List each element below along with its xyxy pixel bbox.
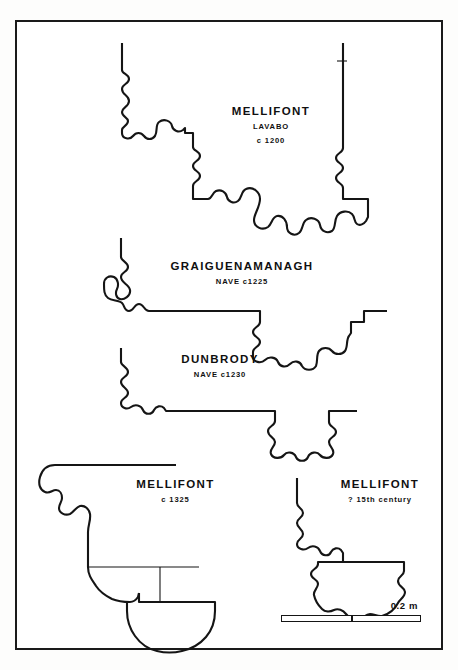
label-sub-mellifont-lavabo: LAVABO xyxy=(196,121,346,132)
label-mellifont-lavabo: MELLIFONT LAVABO c 1200 xyxy=(196,104,346,146)
label-graiguenamanagh: GRAIGUENAMANAGH NAVE c1225 xyxy=(150,259,334,288)
scale-bar: 0.2 m xyxy=(281,600,421,622)
figure-canvas: MELLIFONT LAVABO c 1200 GRAIGUENAMANAGH … xyxy=(0,0,458,670)
label-date-mellifont-lavabo: c 1200 xyxy=(196,135,346,146)
label-title-mellifont-15c: MELLIFONT xyxy=(310,477,450,491)
label-sub-dunbrody: NAVE c1230 xyxy=(140,369,300,380)
scale-bar-midpoint-tick xyxy=(351,616,353,621)
label-title-mellifont-lavabo: MELLIFONT xyxy=(196,104,346,118)
scale-bar-label: 0.2 m xyxy=(281,600,421,611)
label-title-graiguenamanagh: GRAIGUENAMANAGH xyxy=(150,259,334,273)
label-sub-mellifont-15c: ? 15th century xyxy=(310,494,450,505)
label-dunbrody: DUNBRODY NAVE c1230 xyxy=(140,352,300,381)
label-sub-graiguenamanagh: NAVE c1225 xyxy=(150,276,334,287)
label-mellifont-1325: MELLIFONT c 1325 xyxy=(108,477,243,506)
label-title-mellifont-1325: MELLIFONT xyxy=(108,477,243,491)
scale-bar-graphic xyxy=(281,615,421,622)
label-sub-mellifont-1325: c 1325 xyxy=(108,494,243,505)
label-mellifont-15c: MELLIFONT ? 15th century xyxy=(310,477,450,506)
label-title-dunbrody: DUNBRODY xyxy=(140,352,300,366)
